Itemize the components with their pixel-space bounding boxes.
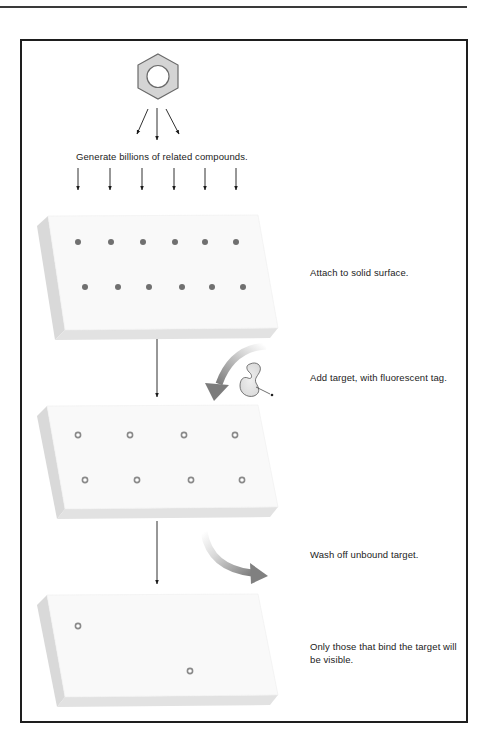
- slab-with-target: [37, 405, 278, 519]
- fluorescent-tag-icon: [271, 394, 274, 397]
- step-label-add-target: Add target, with fluorescent tag.: [310, 371, 447, 384]
- protein-target-icon: [240, 363, 273, 396]
- slab-bound-only: [37, 594, 278, 707]
- down-arrows-row: [78, 168, 236, 190]
- step-label-wash: Wash off unbound target.: [310, 548, 419, 561]
- diverge-arrows: [137, 108, 179, 140]
- step-label-visible: Only those that bind the target will be …: [310, 640, 460, 666]
- slab-compounds: [37, 215, 278, 340]
- step-label-attach: Attach to solid surface.: [310, 266, 409, 279]
- step-label-generate: Generate billions of related compounds.: [76, 150, 248, 163]
- wash-curved-arrow-icon: [204, 532, 268, 584]
- benzene-molecule-icon: [138, 54, 178, 99]
